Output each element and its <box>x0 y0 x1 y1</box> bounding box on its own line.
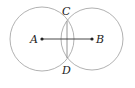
geometry-diagram: A B C D <box>0 0 135 88</box>
label-d: D <box>61 64 71 77</box>
point-a <box>40 37 43 40</box>
point-b <box>90 37 93 40</box>
label-a: A <box>29 33 38 46</box>
label-c: C <box>62 5 71 18</box>
label-b: B <box>95 33 104 46</box>
